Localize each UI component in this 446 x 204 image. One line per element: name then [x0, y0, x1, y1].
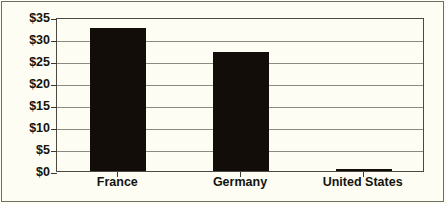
x-axis-label: United States [323, 176, 403, 189]
x-axis-tick [240, 172, 241, 177]
y-axis: $0$5$10$15$20$25$30$35 [0, 18, 50, 172]
y-axis-label: $20 [4, 78, 50, 91]
y-axis-label: $0 [4, 166, 50, 179]
plot-area [56, 18, 424, 172]
x-axis-tick [117, 172, 118, 177]
y-axis-label: $25 [4, 56, 50, 69]
y-axis-label: $35 [4, 12, 50, 25]
y-axis-tick [51, 107, 57, 108]
x-axis: FranceGermanyUnited States [56, 176, 424, 200]
y-axis-tick [51, 41, 57, 42]
bar-chart-screenshot: $0$5$10$15$20$25$30$35 FranceGermanyUnit… [0, 0, 446, 204]
x-axis-label: Germany [213, 176, 267, 189]
y-axis-label: $15 [4, 100, 50, 113]
bar-germany [213, 52, 269, 171]
bar-france [90, 28, 146, 171]
bar-united-states [336, 169, 392, 171]
y-axis-label: $5 [4, 144, 50, 157]
y-axis-label: $10 [4, 122, 50, 135]
y-axis-tick [51, 85, 57, 86]
y-axis-tick [51, 19, 57, 20]
y-axis-tick [51, 173, 57, 174]
y-axis-label: $30 [4, 34, 50, 47]
x-axis-label: France [97, 176, 138, 189]
y-axis-tick [51, 63, 57, 64]
y-axis-tick [51, 151, 57, 152]
x-axis-tick [363, 172, 364, 177]
y-axis-tick [51, 129, 57, 130]
